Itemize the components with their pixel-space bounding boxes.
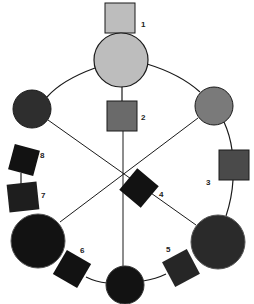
ring-network-diagram: 1 2 8 7 3 4 6 5 (0, 0, 254, 304)
edge-right-3 (224, 122, 232, 150)
label-4: 4 (159, 190, 164, 199)
circle-bottom-right[interactable] (191, 215, 245, 269)
square-3[interactable] (219, 150, 249, 180)
label-1: 1 (141, 20, 146, 29)
label-2: 2 (141, 113, 146, 122)
edge-6-bottom (86, 277, 107, 283)
label-3: 3 (206, 178, 211, 187)
circle-top[interactable] (94, 33, 148, 87)
label-5: 5 (166, 245, 171, 254)
edge-top-left (47, 68, 95, 97)
edge-3-bottomright (226, 180, 233, 216)
square-7[interactable] (7, 182, 40, 213)
label-7: 7 (41, 191, 46, 200)
circle-left[interactable] (13, 90, 51, 128)
label-6: 6 (80, 246, 85, 255)
circle-bottom-left[interactable] (11, 214, 65, 268)
square-8[interactable] (8, 144, 40, 176)
edge-top-right (147, 64, 200, 92)
circle-bottom[interactable] (106, 266, 144, 304)
circle-right[interactable] (195, 87, 233, 125)
edge-bottom-5 (143, 274, 166, 281)
edge-bottomleft-to-right (60, 118, 198, 222)
label-8: 8 (40, 151, 45, 160)
square-1[interactable] (105, 3, 135, 33)
square-2[interactable] (107, 101, 137, 131)
